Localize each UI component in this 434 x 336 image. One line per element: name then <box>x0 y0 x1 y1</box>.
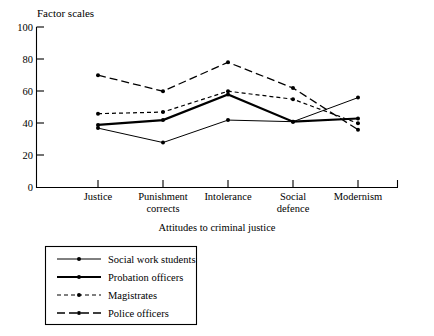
chart-svg: Factor scales 100 80 60 40 20 0 <box>0 0 434 336</box>
data-point <box>161 118 165 122</box>
data-point <box>96 73 100 77</box>
y-tick-label: 20 <box>23 150 34 161</box>
x-category-labels: Justice Punishment corrects Intolerance … <box>84 191 383 214</box>
plot-axes: 100 80 60 40 20 0 <box>17 22 398 193</box>
data-point <box>356 128 360 132</box>
x-tick-label-punishment-line1: Punishment <box>138 191 188 202</box>
y-tick-labels: 100 80 60 40 20 0 <box>17 22 33 193</box>
legend-entries <box>57 257 101 315</box>
y-tick-label: 40 <box>23 118 34 129</box>
legend-label-1: Probation officers <box>108 272 183 283</box>
legend-sample-marker-3 <box>77 311 81 315</box>
data-point <box>161 89 165 93</box>
data-point <box>291 86 295 90</box>
legend-sample-marker-0 <box>77 257 81 261</box>
x-tick-label-justice: Justice <box>84 191 113 202</box>
data-point <box>291 97 295 101</box>
x-tick-label-social-line1: Social <box>280 191 306 202</box>
axis-lines <box>37 27 399 188</box>
data-point <box>96 112 100 116</box>
data-point <box>356 121 360 125</box>
data-point <box>161 110 165 114</box>
x-tick-label-modernism: Modernism <box>334 191 382 202</box>
data-point <box>291 120 295 124</box>
x-tick-marks <box>98 180 398 188</box>
y-tick-label: 60 <box>23 86 34 97</box>
x-axis-title: Attitudes to criminal justice <box>159 222 276 233</box>
legend-label-3: Police officers <box>108 308 169 319</box>
y-axis-title: Factor scales <box>37 7 94 19</box>
data-point <box>226 60 230 64</box>
y-tick-label: 80 <box>23 54 34 65</box>
data-point <box>96 123 100 127</box>
y-tick-label: 100 <box>17 22 33 33</box>
y-tick-marks <box>37 27 45 155</box>
x-tick-label-punishment-line2: corrects <box>146 203 179 214</box>
data-point <box>356 96 360 100</box>
data-point <box>356 116 360 120</box>
x-tick-label-intolerance: Intolerance <box>204 191 252 202</box>
data-point <box>226 89 230 93</box>
data-point <box>226 118 230 122</box>
series-layer <box>96 60 360 144</box>
data-point <box>161 141 165 145</box>
factor-scales-line-chart: Factor scales 100 80 60 40 20 0 <box>0 0 434 336</box>
legend-sample-marker-1 <box>77 275 81 279</box>
legend-label-0: Social work students <box>108 254 196 265</box>
legend-label-2: Magistrates <box>108 290 157 301</box>
legend: Social work students Probation officers … <box>46 247 197 325</box>
x-tick-label-social-line2: defence <box>277 203 310 214</box>
legend-sample-marker-2 <box>77 293 81 297</box>
y-tick-label: 0 <box>28 182 33 193</box>
